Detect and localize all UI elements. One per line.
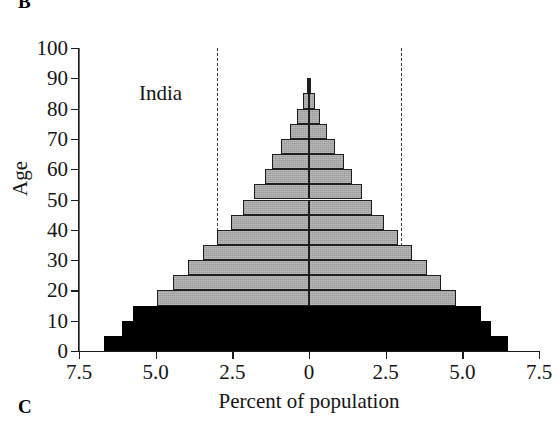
bar-female-75-79: [309, 109, 320, 124]
bar-male-70-74: [290, 124, 309, 139]
x-axis-title: Percent of population: [79, 389, 539, 414]
bar-female-50-54: [309, 184, 362, 199]
bar-male-30-34: [203, 245, 309, 260]
y-tick-label-60: 60: [47, 159, 68, 180]
y-tick-20: [71, 290, 79, 291]
y-tick-label-70: 70: [47, 128, 68, 149]
x-tick-3: [309, 351, 310, 359]
y-tick-label-40: 40: [47, 219, 68, 240]
bar-female-45-49: [309, 200, 372, 215]
bar-female-15-19: [309, 290, 456, 305]
y-tick-60: [71, 169, 79, 170]
bar-male-5-9: [122, 321, 309, 336]
y-tick-10: [71, 321, 79, 322]
x-tick-2: [232, 351, 233, 359]
y-tick-label-80: 80: [47, 98, 68, 119]
x-tick-label-0: 7.5: [66, 362, 92, 383]
chart-title-country: India: [139, 81, 182, 106]
y-tick-50: [71, 200, 79, 201]
y-tick-label-20: 20: [47, 280, 68, 301]
y-tick-80: [71, 109, 79, 110]
y-tick-100: [71, 48, 79, 49]
bar-female-60-64: [309, 154, 344, 169]
y-tick-0: [71, 351, 79, 352]
bar-male-35-39: [217, 230, 309, 245]
bar-male-15-19: [157, 290, 309, 305]
x-tick-label-1: 5.0: [143, 362, 169, 383]
y-tick-label-100: 100: [37, 38, 69, 59]
y-axis-title: Age: [8, 161, 33, 196]
x-tick-1: [156, 351, 157, 359]
panel-label-c: C: [18, 396, 32, 418]
y-tick-label-90: 90: [47, 68, 68, 89]
y-tick-label-50: 50: [47, 189, 68, 210]
bar-male-10-14: [133, 306, 309, 321]
y-tick-40: [71, 230, 79, 231]
x-tick-0: [79, 351, 80, 359]
bar-female-80-84: [309, 93, 315, 108]
bar-female-70-74: [309, 124, 327, 139]
bar-male-0-4: [104, 336, 309, 351]
bar-male-65-69: [281, 139, 309, 154]
x-tick-label-4: 2.5: [373, 362, 399, 383]
y-tick-70: [71, 139, 79, 140]
population-pyramid-figure: B C Age 0102030405060708090100 7.55.02.5…: [0, 0, 559, 424]
y-tick-label-0: 0: [58, 341, 69, 362]
y-tick-label-30: 30: [47, 250, 68, 271]
bar-female-5-9: [309, 321, 491, 336]
plot-area: 0102030405060708090100 7.55.02.502.55.07…: [79, 48, 539, 351]
bar-male-45-49: [243, 200, 309, 215]
x-tick-label-5: 5.0: [449, 362, 475, 383]
bar-female-10-14: [309, 306, 481, 321]
y-tick-30: [71, 260, 79, 261]
bar-female-20-24: [309, 275, 441, 290]
y-tick-90: [71, 78, 79, 79]
x-tick-label-2: 2.5: [219, 362, 245, 383]
bar-male-75-79: [297, 109, 309, 124]
bar-male-50-54: [254, 184, 309, 199]
bar-male-40-44: [231, 215, 309, 230]
x-tick-label-3: 0: [304, 362, 315, 383]
panel-label-b: B: [18, 0, 31, 13]
bar-female-55-59: [309, 169, 352, 184]
center-axis-line: [79, 48, 80, 351]
bar-female-0-4: [309, 336, 508, 351]
bar-female-65-69: [309, 139, 335, 154]
bar-female-40-44: [309, 215, 384, 230]
bar-female-35-39: [309, 230, 398, 245]
bar-female-85+: [309, 78, 311, 93]
bar-male-20-24: [173, 275, 309, 290]
x-tick-label-6: 7.5: [526, 362, 552, 383]
bar-male-55-59: [265, 169, 309, 184]
bar-female-25-29: [309, 260, 427, 275]
bar-female-30-34: [309, 245, 412, 260]
bar-male-25-29: [188, 260, 309, 275]
x-tick-5: [462, 351, 463, 359]
x-tick-6: [539, 351, 540, 359]
y-tick-label-10: 10: [47, 310, 68, 331]
x-tick-4: [386, 351, 387, 359]
bar-male-60-64: [272, 154, 309, 169]
